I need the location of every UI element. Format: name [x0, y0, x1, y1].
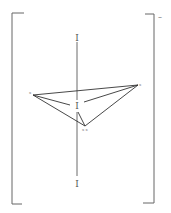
bond-left-center	[33, 95, 70, 105]
structure-diagram: I I I x x x x –	[0, 0, 171, 213]
vertex-label-right: x	[139, 82, 142, 87]
charge-label: –	[158, 12, 162, 21]
atom-label-bottom: I	[75, 179, 79, 189]
vertex-label-left: x	[29, 90, 32, 95]
left-bracket	[12, 13, 24, 204]
atom-label-top: I	[75, 33, 79, 43]
bond-right-bottom	[85, 85, 138, 126]
vertex-label-bottom: x x	[82, 127, 89, 132]
right-bracket	[143, 14, 154, 203]
atom-label-center: I	[75, 101, 79, 111]
